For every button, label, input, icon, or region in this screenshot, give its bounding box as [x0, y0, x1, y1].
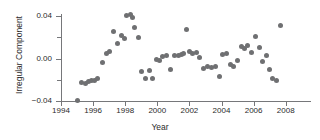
data-point — [164, 53, 169, 58]
data-point — [264, 53, 269, 58]
data-point — [111, 29, 116, 34]
data-point — [217, 74, 222, 79]
data-point — [143, 76, 148, 81]
data-point — [235, 58, 240, 63]
data-point — [245, 43, 250, 48]
data-point — [253, 34, 258, 39]
data-point — [147, 68, 152, 73]
data-point — [139, 69, 144, 74]
x-axis-line — [61, 101, 311, 102]
x-axis-tick-label: 2008 — [277, 107, 295, 115]
scatter-chart-figure: Irregular Component Year −0.040.000.04 1… — [0, 0, 320, 140]
data-point — [136, 35, 141, 40]
data-point — [168, 67, 173, 72]
data-point — [181, 51, 186, 56]
data-point — [267, 67, 272, 72]
x-axis-tick-label: 1994 — [52, 107, 70, 115]
x-axis-tick-label: 2004 — [213, 107, 231, 115]
data-point — [257, 45, 262, 50]
data-point — [224, 51, 229, 56]
plot-area — [61, 16, 308, 101]
data-point — [132, 25, 137, 30]
y-axis-tick-label: −0.04 — [32, 97, 52, 105]
data-point — [122, 36, 127, 41]
data-point — [278, 23, 283, 28]
data-point — [130, 15, 135, 20]
x-axis-tick-label: 2000 — [148, 107, 166, 115]
x-axis-title: Year — [0, 122, 320, 132]
x-axis-tick-label: 1996 — [84, 107, 102, 115]
data-point — [184, 27, 189, 32]
data-point — [197, 55, 202, 60]
y-axis-tick-label: 0.00 — [36, 55, 52, 63]
x-axis-tick-label: 2006 — [245, 107, 263, 115]
data-point — [115, 41, 120, 46]
data-point — [107, 49, 112, 54]
data-point — [95, 76, 100, 81]
data-point — [100, 60, 105, 65]
data-point — [274, 78, 279, 83]
x-axis-tick-label: 1998 — [116, 107, 134, 115]
y-axis-tick-label: 0.04 — [36, 12, 52, 20]
data-point — [213, 64, 218, 69]
data-point — [194, 50, 199, 55]
data-point — [75, 98, 80, 103]
data-point — [231, 64, 236, 69]
data-point — [260, 59, 265, 64]
data-point — [249, 50, 254, 55]
x-axis-tick-label: 2002 — [180, 107, 198, 115]
data-point — [150, 76, 155, 81]
y-axis-title: Irregular Component — [14, 7, 24, 103]
